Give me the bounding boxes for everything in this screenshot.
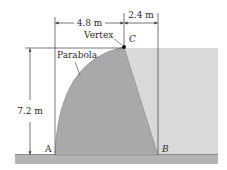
parabola-label: Parabola bbox=[57, 50, 98, 60]
vertex-dot bbox=[122, 45, 126, 49]
dam-diagram: 4.8 m 2.4 m 7.2 m Vertex C Parabola A B bbox=[0, 0, 227, 170]
dim-label-width-right: 2.4 m bbox=[128, 10, 154, 20]
dim-label-height: 7.2 m bbox=[17, 106, 43, 116]
dim-label-width-left: 4.8 m bbox=[77, 18, 103, 28]
point-a-label: A bbox=[44, 144, 52, 154]
parabola-leader bbox=[75, 62, 80, 75]
point-c-label: C bbox=[129, 34, 136, 44]
point-b-label: B bbox=[161, 144, 169, 154]
ground bbox=[15, 154, 218, 164]
vertex-label: Vertex bbox=[83, 30, 113, 40]
vertex-leader bbox=[114, 39, 122, 45]
